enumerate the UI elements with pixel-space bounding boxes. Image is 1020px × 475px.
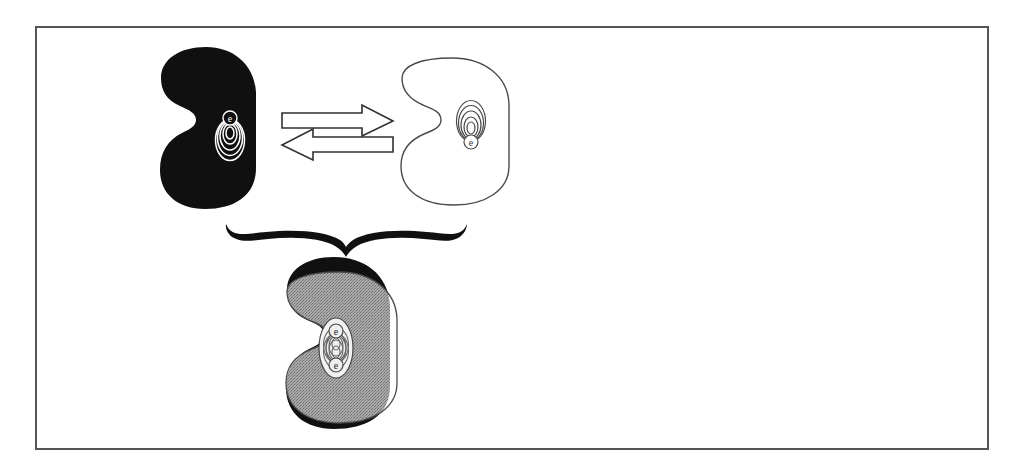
page-root: Conformational equilibrium of a receptor…	[0, 0, 1020, 475]
composite-site-letter-top: e	[334, 326, 339, 337]
right-conformer-shape: e	[401, 58, 509, 205]
left-conformer-site-mark: e	[214, 103, 246, 161]
arrow-right-icon	[282, 105, 393, 136]
summary-brace	[226, 224, 467, 257]
arrow-left-icon	[282, 129, 393, 160]
equilibrium-arrows	[282, 105, 393, 160]
composite-site-letter-bottom: e	[334, 360, 339, 371]
figure-canvas: e e	[0, 0, 1020, 475]
left-site-letter: e	[228, 113, 233, 124]
composite-site-mark: e e	[319, 318, 353, 378]
right-site-letter: e	[469, 137, 474, 148]
composite-overlay: e e	[286, 257, 397, 429]
left-conformer-shape: e	[160, 47, 256, 209]
